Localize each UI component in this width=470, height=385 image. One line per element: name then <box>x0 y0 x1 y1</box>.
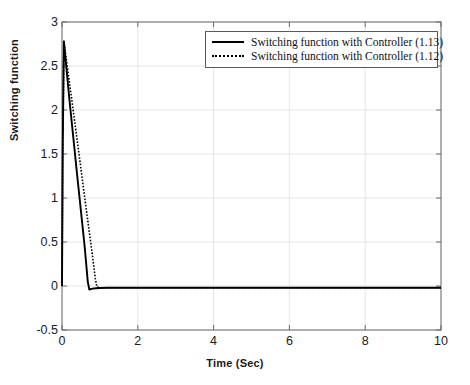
legend-item-controller-113: Switching function with Controller (1.13… <box>210 35 433 49</box>
legend-item-controller-112: Switching function with Controller (1.12… <box>210 49 433 63</box>
y-tick-label: 1.5 <box>14 147 58 161</box>
y-axis-label: Switching function <box>8 20 20 160</box>
series-line-1 <box>62 41 441 289</box>
tick-marks <box>62 22 441 330</box>
legend-label-controller-113: Switching function with Controller (1.13… <box>251 36 443 49</box>
chart-legend: Switching function with Controller (1.13… <box>205 31 438 68</box>
y-tick-label: 3 <box>14 15 58 29</box>
series-line-2 <box>62 41 441 287</box>
y-tick-label: 1 <box>14 191 58 205</box>
x-tick-label: 8 <box>345 334 385 348</box>
x-tick-label: 6 <box>269 334 309 348</box>
grid-lines <box>62 22 441 330</box>
legend-label-controller-112: Switching function with Controller (1.12… <box>251 50 443 63</box>
y-tick-label: 0 <box>14 279 58 293</box>
chart-figure: -0.500.511.522.53 0246810 Switching func… <box>0 0 470 385</box>
x-axis-label: Time (Sec) <box>0 357 470 369</box>
x-tick-label: 4 <box>194 334 234 348</box>
legend-dotted-line-icon <box>210 50 246 62</box>
y-tick-label: 2.5 <box>14 59 58 73</box>
plot-frame <box>62 22 441 330</box>
legend-solid-line-icon <box>210 36 246 48</box>
y-tick-label: 2 <box>14 103 58 117</box>
x-tick-label: 10 <box>421 334 461 348</box>
y-tick-label: 0.5 <box>14 235 58 249</box>
x-tick-label: 0 <box>42 334 82 348</box>
x-tick-label: 2 <box>118 334 158 348</box>
